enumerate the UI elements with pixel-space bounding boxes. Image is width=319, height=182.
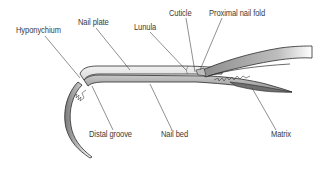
label-proximal-nail-fold: Proximal nail fold bbox=[209, 9, 265, 18]
label-matrix: Matrix bbox=[271, 130, 291, 139]
label-distal-groove: Distal groove bbox=[89, 130, 132, 139]
label-nail-plate: Nail plate bbox=[78, 18, 109, 27]
label-hyponychium: Hyponychium bbox=[16, 26, 61, 35]
nail-bed-shape bbox=[84, 75, 292, 92]
label-lunula: Lunula bbox=[134, 23, 156, 32]
nail-anatomy-diagram: Hyponychium Nail plate Lunula Cuticle Pr… bbox=[0, 0, 319, 182]
label-cuticle: Cuticle bbox=[169, 9, 192, 18]
fingertip-skin bbox=[65, 82, 92, 158]
proximal-nail-fold-shape bbox=[196, 46, 312, 81]
label-nail-bed: Nail bed bbox=[161, 130, 188, 139]
